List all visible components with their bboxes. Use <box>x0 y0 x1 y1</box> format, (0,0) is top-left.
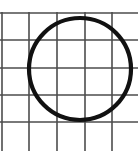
figure-panel: B <box>0 0 138 151</box>
grid-with-circle-graphic <box>0 0 138 151</box>
figure-background <box>0 0 138 151</box>
